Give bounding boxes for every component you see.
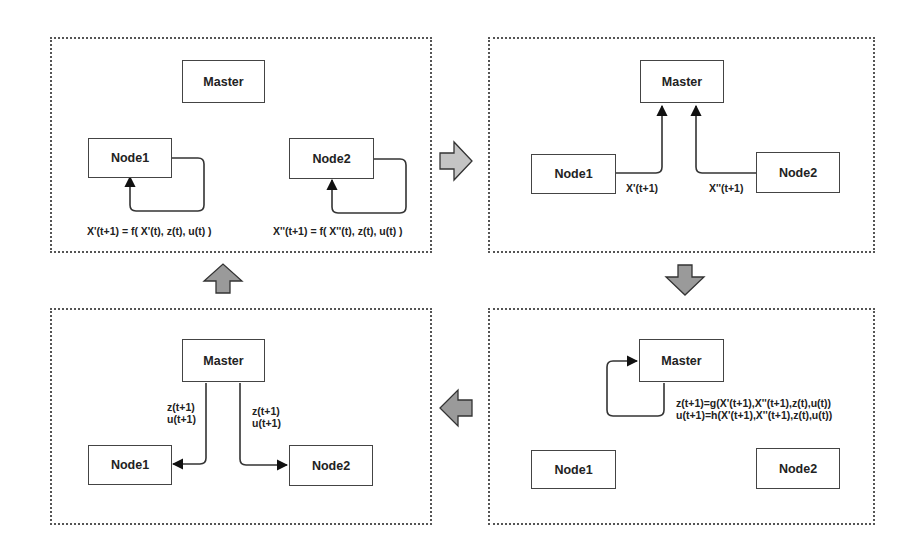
u-update-formula: u(t+1)=h(X'(t+1),X''(t+1),z(t),u(t))	[676, 409, 832, 421]
master-box: Master	[639, 339, 724, 382]
master-box: Master	[640, 60, 724, 103]
broadcast-left-label-z: z(t+1)	[167, 401, 195, 413]
z-update-formula: z(t+1)=g(X'(t+1),X''(t+1),z(t),u(t))	[676, 397, 831, 409]
master-box: Master	[182, 339, 265, 382]
flow-arrow-right-icon	[440, 142, 472, 180]
flow-arrow-down-icon	[666, 265, 704, 295]
broadcast-left-label-u: u(t+1)	[167, 413, 196, 425]
node2-box: Node2	[756, 448, 840, 489]
broadcast-right-label-z: z(t+1)	[252, 405, 280, 417]
node1-box: Node1	[88, 138, 172, 178]
node2-box: Node2	[756, 152, 840, 193]
node1-box: Node1	[531, 450, 616, 489]
broadcast-right-label-u: u(t+1)	[252, 417, 281, 429]
node2-box: Node2	[289, 445, 373, 486]
master-box: Master	[182, 60, 265, 103]
node1-update-formula: X'(t+1) = f( X'(t), z(t), u(t) )	[87, 225, 212, 237]
node2-box: Node2	[289, 138, 374, 179]
flow-arrow-left-icon	[440, 390, 472, 426]
node1-box: Node1	[531, 154, 616, 194]
node2-update-formula: X''(t+1) = f( X''(t), z(t), u(t) )	[273, 225, 403, 237]
flow-arrow-up-icon	[204, 264, 242, 293]
node1-box: Node1	[88, 445, 172, 485]
node2-state-edge-label: X''(t+1)	[709, 182, 743, 194]
node1-state-edge-label: X'(t+1)	[626, 182, 658, 194]
